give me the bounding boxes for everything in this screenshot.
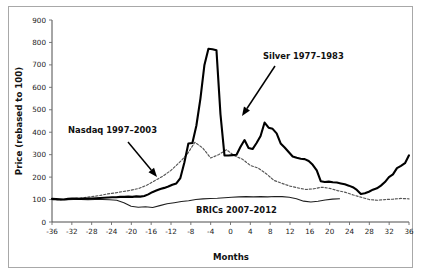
y-tick-label: 100 xyxy=(32,195,46,204)
axis-lines xyxy=(52,20,409,222)
x-tick-label: 0 xyxy=(228,227,233,236)
x-tick-label: 28 xyxy=(365,227,375,236)
figure-container: 0100200300400500600700800900 -36-32-28-2… xyxy=(0,0,421,276)
x-tick-label: 20 xyxy=(325,227,335,236)
x-tick-label: -32 xyxy=(66,227,78,236)
y-axis-title: Price (rebased to 100) xyxy=(14,67,24,175)
x-tick-label: -8 xyxy=(187,227,195,236)
nasdaq-annotation-arrow-line xyxy=(128,142,151,170)
brics-annotation-label: BRICs 2007–2012 xyxy=(196,205,277,215)
chart-axes xyxy=(49,20,409,225)
silver-annotation: Silver 1977–1983 xyxy=(242,51,344,116)
x-tick-label: 36 xyxy=(404,227,414,236)
x-tick-label: -20 xyxy=(125,227,137,236)
silver-annotation-label: Silver 1977–1983 xyxy=(263,51,344,61)
series-line-nasdaq xyxy=(52,142,409,200)
brics-annotation: BRICs 2007–2012 xyxy=(196,205,277,215)
x-axis-tick-labels: -36-32-28-24-20-16-12-8-4048121620242832… xyxy=(46,227,414,236)
x-tick-label: 8 xyxy=(268,227,273,236)
silver-annotation-arrow-head xyxy=(242,107,250,116)
x-tick-label: -24 xyxy=(106,227,118,236)
x-tick-label: 12 xyxy=(285,227,294,236)
y-tick-label: 300 xyxy=(32,150,46,159)
x-tick-label: -12 xyxy=(165,227,177,236)
y-tick-label: 400 xyxy=(32,128,46,137)
x-tick-label: -36 xyxy=(46,227,58,236)
nasdaq-annotation: Nasdaq 1997–2003 xyxy=(68,125,157,177)
y-tick-label: 900 xyxy=(32,16,46,25)
y-tick-label: 500 xyxy=(32,105,46,114)
y-tick-label: 200 xyxy=(32,173,46,182)
x-axis-title: Months xyxy=(213,252,249,262)
x-tick-label: -16 xyxy=(145,227,157,236)
x-tick-label: -28 xyxy=(86,227,98,236)
x-tick-label: 24 xyxy=(345,227,355,236)
y-tick-label: 0 xyxy=(41,218,46,227)
x-tick-label: -4 xyxy=(207,227,215,236)
silver-annotation-arrow-line xyxy=(247,66,275,108)
y-tick-label: 700 xyxy=(32,60,46,69)
y-tick-label: 600 xyxy=(32,83,46,92)
y-axis-tick-labels: 0100200300400500600700800900 xyxy=(32,16,46,227)
nasdaq-annotation-label: Nasdaq 1997–2003 xyxy=(68,125,157,135)
y-tick-label: 800 xyxy=(32,38,46,47)
x-tick-label: 16 xyxy=(305,227,315,236)
x-tick-label: 32 xyxy=(385,227,394,236)
chart-annotations: Nasdaq 1997–2003Silver 1977–1983BRICs 20… xyxy=(68,51,344,215)
x-tick-label: 4 xyxy=(248,227,253,236)
price-rebased-line-chart: 0100200300400500600700800900 -36-32-28-2… xyxy=(0,0,421,276)
